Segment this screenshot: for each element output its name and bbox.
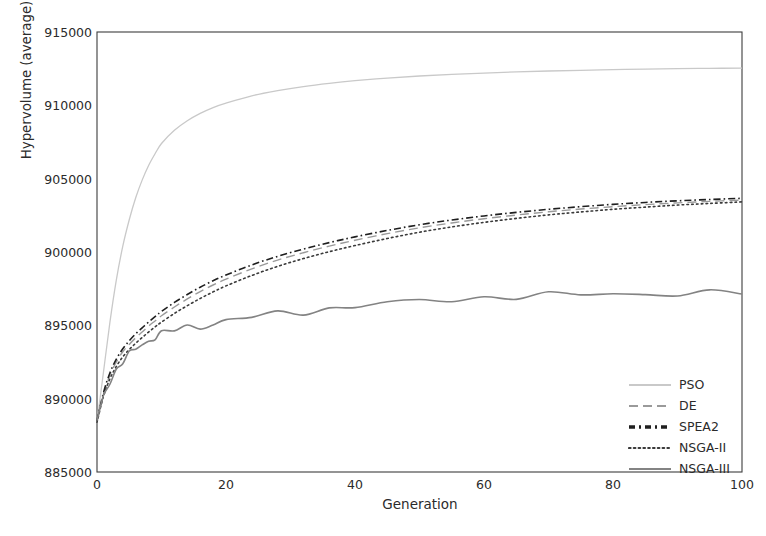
legend-label: PSO bbox=[672, 377, 704, 392]
legend-item-pso: PSO bbox=[628, 374, 746, 395]
legend-item-nsga2: NSGA-II bbox=[628, 437, 746, 458]
legend-item-spea2: SPEA2 bbox=[628, 416, 746, 437]
legend-line-sample-nsga3 bbox=[628, 462, 672, 476]
legend-line-sample-spea2 bbox=[628, 420, 672, 434]
chart-figure: Hypervolume (average) 915000 910000 9050… bbox=[0, 0, 766, 536]
series-line-pso bbox=[97, 68, 742, 422]
legend-item-de: DE bbox=[628, 395, 746, 416]
chart-legend: PSO DE SPEA2 NSGA-II NSGA-III bbox=[628, 374, 746, 479]
legend-label: DE bbox=[672, 398, 697, 413]
legend-label: SPEA2 bbox=[672, 419, 719, 434]
legend-line-sample-nsga2 bbox=[628, 441, 672, 455]
legend-line-sample-de bbox=[628, 399, 672, 413]
legend-line-sample-pso bbox=[628, 378, 672, 392]
legend-label: NSGA-III bbox=[672, 461, 730, 476]
legend-label: NSGA-II bbox=[672, 440, 726, 455]
legend-item-nsga3: NSGA-III bbox=[628, 458, 746, 479]
